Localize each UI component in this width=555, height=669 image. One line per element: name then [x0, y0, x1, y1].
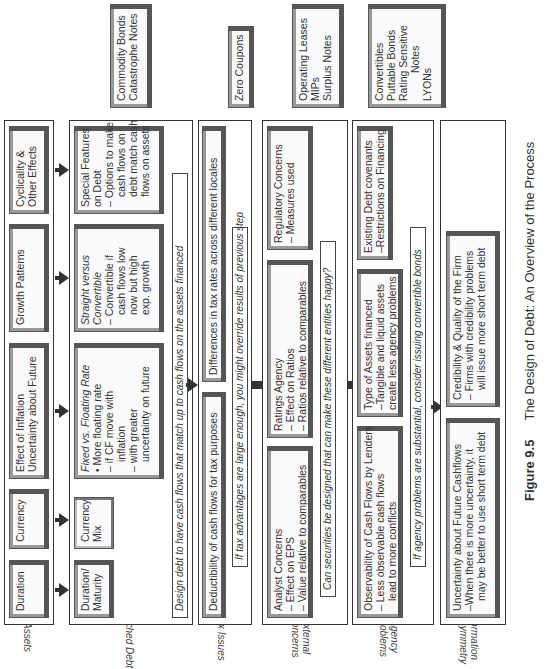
box-text: – Effect on Ratios [284, 268, 296, 431]
debt-straight-convertible-box: Straight versus Convertible – Convertibl… [74, 224, 164, 332]
box-text: Special Features [79, 134, 91, 207]
box-text: inflation [115, 351, 127, 472]
security-operating-leases-box: Operating Leases MIPs Surplus Notes [292, 4, 344, 108]
box-text: Type of Assets financed [362, 277, 374, 410]
arrow-down-icon [55, 163, 69, 177]
box-text: now but high [127, 232, 139, 325]
debt-duration-box: Duration/ Maturity [74, 560, 114, 618]
box-text: on Debt [91, 134, 103, 207]
box-text: – Options to make [103, 134, 115, 207]
box-text: – Less observable cash flows [374, 434, 386, 611]
box-text: MIPs [309, 12, 321, 101]
box-text: cash flows low [115, 232, 127, 325]
debt-fixed-floating-box: Fixed vs. Floating Rate • More floating … [74, 343, 164, 479]
box-text: Analyst Concerns [272, 454, 284, 611]
arrow-down-icon [186, 378, 198, 392]
note-text: Design debt to have cash flows that matc… [174, 246, 185, 611]
box-text: Credibility & Quality of the Firm [451, 239, 463, 400]
box-text: create less agency problems [386, 277, 398, 410]
matched-debt-note: Design debt to have cash flows that matc… [172, 173, 188, 618]
tax-deductibility-box: Deductibility of cash flows for tax purp… [202, 392, 226, 618]
asset-duration-box: Duration [9, 560, 49, 618]
note-text: Can securities be designed that can make… [322, 268, 333, 590]
box-text: – Value relative to comparables [296, 454, 308, 611]
agency-observability-box: Observability of Cash Flows by Lenders –… [357, 426, 403, 618]
box-text: Observability of Cash Flows by Lenders [362, 434, 374, 611]
connector [252, 381, 262, 389]
box-text: –When there is more uncertainty, it [463, 426, 475, 611]
box-text: debt match cash [127, 134, 139, 207]
asset-inflation-box: Effect of Inflation Uncertainty about Fu… [9, 343, 49, 479]
figure-caption: Figure 9.5 The Design of Debt: An Overvi… [522, 142, 537, 501]
external-analyst-box: Analyst Concerns – Effect on EPS – Value… [267, 446, 313, 618]
arrow-down-icon [55, 271, 69, 285]
box-text: Uncertainty about Future Cashflows [451, 426, 463, 611]
info-credibility-box: Credibility & Quality of the Firm – Firm… [446, 231, 500, 407]
security-zero-coupons-box: Zero Coupons [228, 26, 254, 108]
box-text: Differences in tax rates across differen… [207, 134, 219, 375]
debt-currency-mix-box: Currency Mix [74, 497, 114, 549]
box-text: – Ratios relative to comparables [296, 268, 308, 431]
asset-currency-box: Currency [9, 489, 49, 549]
arrow-down-icon [55, 404, 69, 418]
box-text: Duration/ [79, 568, 91, 611]
box-text: lead to more conflicts [386, 434, 398, 611]
debt-special-features-box: Special Features on Debt – Options to ma… [74, 126, 164, 214]
box-text: uncertainty on future [139, 351, 151, 472]
caption-title: The Design of Debt: An Overview of the P… [522, 142, 537, 421]
caption-number: Figure 9.5 [522, 440, 537, 501]
box-text: Zero Coupons [233, 34, 245, 101]
arrow-down-icon [55, 513, 69, 527]
box-text: Regulatory Concerns [272, 134, 284, 243]
box-text: cash flows on [115, 134, 127, 207]
box-text: Mix [91, 505, 103, 542]
box-text: Duration [14, 568, 26, 611]
box-text: Currency [14, 497, 26, 542]
box-text: Commodity Bonds [115, 12, 127, 101]
box-text: LYONs [421, 12, 433, 101]
box-text: – Measures used [284, 134, 296, 243]
box-text: Other Effects [26, 134, 38, 207]
box-text: Operating Leases [297, 12, 309, 101]
arrow-down-icon [55, 583, 69, 597]
asset-cyclicality-box: Cyclicality & Other Effects [9, 126, 49, 214]
box-text: Puttable Bonds [385, 12, 397, 101]
row-label-text: Assets [22, 622, 33, 652]
box-text: Existing Debt covenants [362, 134, 374, 253]
agency-asset-type-box: Type of Assets financed –Tangible and li… [357, 269, 403, 417]
box-text: exp. growth [139, 232, 151, 325]
box-text: flows on assets [139, 134, 151, 207]
agency-problems-note: If agency problems are substantial, cons… [410, 227, 426, 567]
box-text: –Restrictions on Financing [374, 134, 386, 253]
box-title: Fixed vs. Floating Rate [79, 351, 91, 472]
box-text: – with greater [127, 351, 139, 472]
box-text: – Convertible if [103, 232, 115, 325]
box-text: Notes [409, 12, 421, 101]
external-ratings-box: Ratings Agency – Effect on Ratios – Rati… [267, 260, 313, 438]
tax-rate-differences-box: Differences in tax rates across differen… [202, 126, 226, 382]
box-text: Effect of Inflation [14, 351, 26, 472]
box-text: • More floating rate [91, 351, 103, 472]
box-text: Rating Sensitive [397, 12, 409, 101]
tax-issues-note: If tax advantages are large enough, you … [232, 227, 248, 567]
box-text: Surplus Notes [321, 12, 333, 101]
box-text: Catastrophe Notes [127, 12, 139, 101]
asset-growth-box: Growth Patterns [9, 224, 49, 332]
box-text: – Effect on EPS [284, 454, 296, 611]
security-convertibles-box: Convertibles Puttable Bonds Rating Sensi… [368, 4, 446, 108]
box-text: will issue more short term debt [475, 239, 487, 400]
box-text: Uncertainty about Future [26, 351, 38, 472]
box-text: Maturity [91, 568, 103, 611]
security-commodity-bonds-box: Commodity Bonds Catastrophe Notes [110, 4, 152, 108]
box-text: Deductibility of cash flows for tax purp… [207, 400, 219, 611]
box-text: – if CF move with [103, 351, 115, 472]
box-title: Straight versus Convertible [79, 232, 103, 325]
box-text: –Tangible and liquid assets [374, 277, 386, 410]
box-text: – Firms with credibility problems [463, 239, 475, 400]
box-text: may be better to use short term debt [475, 426, 487, 611]
note-text: If agency problems are substantial, cons… [412, 249, 423, 560]
external-concerns-note: Can securities be designed that can make… [320, 241, 336, 597]
agency-covenants-box: Existing Debt covenants –Restrictions on… [357, 126, 393, 260]
box-text: Ratings Agency [272, 268, 284, 431]
